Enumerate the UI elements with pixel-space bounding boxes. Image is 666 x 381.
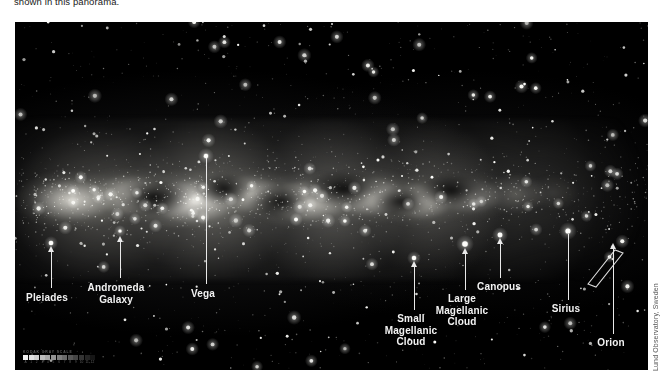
calibration-number-4: 4 xyxy=(45,360,50,364)
milky-way-panorama-image: PleiadesAndromeda GalaxyVegaSmall Magell… xyxy=(15,22,648,370)
leader-line-small-magellanic-cloud xyxy=(414,266,415,310)
calibration-swatch-12 xyxy=(90,355,95,360)
photo-credit-text: Lund Observatory, Sweden xyxy=(652,283,659,371)
leader-line-andromeda-galaxy xyxy=(120,240,121,278)
calibration-number-11: 11 xyxy=(85,360,90,364)
arrowhead-pleiades xyxy=(48,246,54,252)
calibration-swatch-2 xyxy=(34,355,39,360)
calibration-swatch-8 xyxy=(68,355,73,360)
leader-line-large-magellanic-cloud xyxy=(465,253,466,290)
arrowhead-canopus xyxy=(497,238,503,244)
calibration-swatch-10 xyxy=(79,355,84,360)
photo-credit: Lund Observatory, Sweden xyxy=(654,251,664,371)
leader-line-vega xyxy=(206,158,207,284)
calibration-swatches xyxy=(23,355,143,360)
calibration-number-9: 9 xyxy=(73,360,78,364)
calibration-swatch-4 xyxy=(45,355,50,360)
calibration-swatch-11 xyxy=(85,355,90,360)
caption-text: shown in this panorama. xyxy=(14,0,119,7)
calibration-caption: KODAK GRAY SCALE xyxy=(23,350,143,354)
grayscale-calibration-strip: KODAK GRAY SCALE A123456789101112 xyxy=(23,350,143,364)
calibration-number-8: 8 xyxy=(68,360,73,364)
calibration-number-2: 2 xyxy=(34,360,39,364)
label-pleiades: Pleiades xyxy=(26,292,68,304)
leader-line-sirius xyxy=(568,234,569,300)
calibration-swatch-6 xyxy=(57,355,62,360)
calibration-swatch-3 xyxy=(40,355,45,360)
calibration-number-1: 1 xyxy=(29,360,34,364)
arrowhead-andromeda-galaxy xyxy=(117,236,123,242)
calibration-swatch-5 xyxy=(51,355,56,360)
arrowhead-small-magellanic-cloud xyxy=(411,261,417,267)
leader-line-canopus xyxy=(500,243,501,278)
arrowhead-large-magellanic-cloud xyxy=(462,248,468,254)
calibration-numbers: A123456789101112 xyxy=(23,360,143,364)
annotation-layer: PleiadesAndromeda GalaxyVegaSmall Magell… xyxy=(15,22,648,370)
calibration-number-10: 10 xyxy=(79,360,84,364)
label-vega: Vega xyxy=(191,288,215,300)
calibration-swatch-7 xyxy=(62,355,67,360)
calibration-number-0: A xyxy=(23,360,28,364)
label-orion: Orion xyxy=(597,337,624,349)
calibration-swatch-9 xyxy=(73,355,78,360)
label-canopus: Canopus xyxy=(477,281,521,293)
arrowhead-orion xyxy=(610,243,616,249)
calibration-number-6: 6 xyxy=(57,360,62,364)
calibration-number-12: 12 xyxy=(90,360,95,364)
calibration-swatch-1 xyxy=(29,355,34,360)
label-andromeda-galaxy: Andromeda Galaxy xyxy=(88,282,145,305)
leader-line-orion xyxy=(613,248,614,334)
calibration-number-3: 3 xyxy=(40,360,45,364)
label-small-magellanic-cloud: Small Magellanic Cloud xyxy=(385,313,438,348)
calibration-number-5: 5 xyxy=(51,360,56,364)
calibration-number-7: 7 xyxy=(62,360,67,364)
calibration-swatch-0 xyxy=(23,355,28,360)
label-large-magellanic-cloud: Large Magellanic Cloud xyxy=(436,293,489,328)
leader-line-pleiades xyxy=(51,250,52,288)
label-sirius: Sirius xyxy=(552,303,581,315)
